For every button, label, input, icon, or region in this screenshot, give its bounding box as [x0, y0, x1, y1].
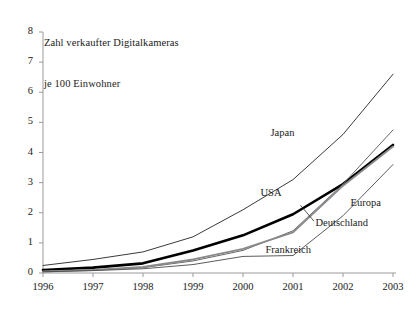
series-line-deutschland [43, 146, 393, 271]
series-label-usa: USA [261, 187, 282, 198]
x-axis-tick-label: 2002 [320, 281, 366, 292]
y-axis-tick-label: 6 [17, 85, 33, 96]
x-axis-tick-label: 2003 [370, 281, 416, 292]
series-line-japan [43, 74, 393, 265]
x-axis-tick-label: 1999 [170, 281, 216, 292]
x-axis-tick-label: 1998 [120, 281, 166, 292]
y-axis-tick-label: 1 [17, 236, 33, 247]
x-axis-tick-label: 2001 [270, 281, 316, 292]
y-axis-ticks [39, 32, 43, 273]
plot-area [0, 0, 419, 324]
series-label-deutschland: Deutschland [316, 217, 369, 228]
series-line-usa [43, 145, 393, 270]
series-label-japan: Japan [271, 127, 295, 138]
x-axis-tick-label: 2000 [220, 281, 266, 292]
series-line-europa [43, 130, 393, 272]
chart-container: Zahl verkaufter Digitalkameras je 100 Ei… [0, 0, 419, 324]
y-axis-tick-label: 5 [17, 115, 33, 126]
y-axis-tick-label: 7 [17, 55, 33, 66]
x-axis-tick-label: 1997 [70, 281, 116, 292]
y-axis-tick-label: 3 [17, 176, 33, 187]
axis-lines [43, 32, 396, 273]
y-axis-tick-label: 0 [17, 266, 33, 277]
series-label-frankreich: Frankreich [266, 244, 311, 255]
x-axis-tick-label: 1996 [20, 281, 66, 292]
y-axis-tick-label: 4 [17, 146, 33, 157]
x-axis-ticks [43, 273, 393, 277]
data-series-group [43, 74, 393, 272]
y-axis-tick-label: 8 [17, 25, 33, 36]
y-axis-tick-label: 2 [17, 206, 33, 217]
series-label-europa: Europa [351, 197, 381, 208]
